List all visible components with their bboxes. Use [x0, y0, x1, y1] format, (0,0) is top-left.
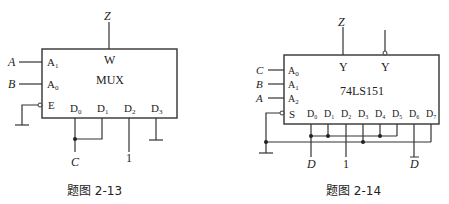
input-1-label: 1	[126, 151, 132, 165]
output-pin-label: W	[104, 53, 116, 67]
enable-ground-wire	[266, 113, 280, 153]
output-inversion-bubble	[383, 51, 387, 55]
select-signal-a: A	[7, 55, 16, 69]
select-signal-b: B	[256, 78, 263, 90]
output-signal-label: Z	[338, 15, 345, 29]
enable-inversion-bubble	[280, 111, 284, 115]
figure-caption: 题图 2-13	[67, 184, 122, 198]
pin-y: Y	[339, 60, 348, 74]
input-d-label: D	[306, 157, 316, 171]
junction-dot	[326, 134, 330, 138]
junction-dot	[309, 134, 313, 138]
input-1-label: 1	[343, 157, 349, 171]
enable-ground-wire	[22, 105, 38, 125]
junction-dot	[361, 140, 365, 144]
d1-wire	[75, 118, 102, 139]
enable-inversion-bubble	[38, 103, 42, 107]
pin-e: E	[48, 99, 55, 111]
select-signal-b: B	[8, 77, 16, 91]
figure-caption: 题图 2-14	[326, 184, 381, 198]
figure-2-13: Z W MUX A A1 B A0 E D0 D1 D2 D3 C 1 题图 2…	[7, 9, 177, 198]
select-signal-a: A	[255, 92, 263, 104]
select-signal-c: C	[256, 64, 264, 76]
pin-y-bar: Y	[381, 60, 390, 74]
figure-2-14: Z Y Y 74LS151 C A0 B A1 A A2 S D0 D1 D2 …	[255, 15, 439, 198]
circuit-diagrams: Z W MUX A A1 B A0 E D0 D1 D2 D3 C 1 题图 2…	[0, 0, 449, 204]
junction-dot	[378, 134, 382, 138]
junction-dot	[73, 137, 77, 141]
junction-dot	[264, 140, 268, 144]
input-d-bar-label: D	[409, 157, 419, 171]
output-signal-label: Z	[104, 9, 111, 23]
pin-s: S	[289, 108, 295, 120]
input-c-label: C	[71, 155, 80, 169]
chip-label: MUX	[96, 73, 124, 87]
chip-label: 74LS151	[340, 84, 384, 98]
